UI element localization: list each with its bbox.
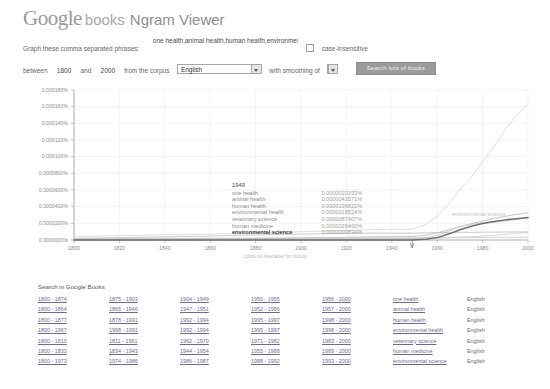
year-range-link[interactable]: 1988 - 1992 <box>251 358 280 364</box>
year-range-link[interactable]: 1800 - 1874 <box>38 296 67 302</box>
year-range-cell: 1800 - 1810 <box>38 338 109 348</box>
case-insensitive-label[interactable]: case-insensitive <box>322 45 368 52</box>
x-axis-tick-label: 1900 <box>295 245 307 251</box>
year-range-link[interactable]: 1992 - 1994 <box>180 317 209 323</box>
year-range-link[interactable]: 1800 - 1877 <box>38 317 67 323</box>
year-range-link[interactable]: 1998 - 2000 <box>322 327 351 333</box>
year-range-link[interactable]: 1834 - 1943 <box>109 348 138 354</box>
search-button[interactable]: Search lots of books <box>356 62 436 75</box>
year-range-link[interactable]: 1962 - 1970 <box>180 338 209 344</box>
x-axis-tick-label: 1880 <box>250 245 262 251</box>
and-label: and <box>80 67 91 74</box>
year-range-link[interactable]: 1800 - 1864 <box>38 306 67 312</box>
y-axis-tick-label: 0.000120% <box>42 137 69 143</box>
year-range-link[interactable]: 1800 - 1973 <box>38 358 67 364</box>
query-row-phrases: Graph these comma separated phrases: one… <box>23 37 368 48</box>
year-range-cell: 1993 - 2000 <box>322 358 393 368</box>
phrase-link[interactable]: human medicine <box>393 348 433 354</box>
year-range-cell: 1800 - 1973 <box>38 358 109 368</box>
year-range-link[interactable]: 1811 - 1961 <box>109 338 137 344</box>
case-insensitive-checkbox[interactable] <box>306 44 314 52</box>
year-range-cell: 1995 - 1997 <box>251 317 322 327</box>
corpus-select[interactable]: English <box>177 64 262 74</box>
year-range-link[interactable]: 1957 - 2000 <box>322 306 351 312</box>
year-range-link[interactable]: 1950 - 1955 <box>251 296 280 302</box>
year-range-link[interactable]: 1875 - 1903 <box>109 296 138 302</box>
chevron-down-icon <box>251 65 261 73</box>
search-links-row: 1800 - 18101811 - 19611962 - 19701971 - … <box>38 338 485 348</box>
phrase-link[interactable]: environmental health <box>393 327 443 333</box>
tooltip-row-value: 0.0000043571% <box>315 196 380 203</box>
year-range-cell: 1947 - 1951 <box>180 306 251 316</box>
language-cell: English <box>467 327 485 337</box>
chart-svg[interactable]: 0.000180%0.000160%0.000140%0.000120%0.00… <box>12 84 539 266</box>
chevron-down-icon <box>328 65 337 73</box>
year-range-link[interactable]: 1995 - 1997 <box>251 317 280 323</box>
year-range-link[interactable]: 1995 - 1997 <box>251 327 280 333</box>
year-range-link[interactable]: 1800 - 1967 <box>38 327 67 333</box>
year-range-cell: 1800 - 1864 <box>38 306 109 316</box>
smoothing-label: with smoothing of <box>269 67 320 74</box>
year-range-link[interactable]: 1993 - 2000 <box>322 358 351 364</box>
year-range-cell: 1989 - 2000 <box>322 348 393 358</box>
year-range-link[interactable]: 1878 - 1991 <box>109 317 138 323</box>
phrase-link[interactable]: animal health <box>393 306 425 312</box>
tooltip-row: veterinary science0.0000087407% <box>232 216 380 223</box>
y-axis-tick-label: 0.000160% <box>42 103 69 109</box>
year-range-link[interactable]: 1800 - 1833 <box>38 348 67 354</box>
year-range-link[interactable]: 1955 - 1988 <box>251 348 280 354</box>
year-range-link[interactable]: 1974 - 1986 <box>109 358 138 364</box>
phrase-cell: veterinary science <box>393 338 467 348</box>
phrases-input[interactable]: one health,animal health,human health,en… <box>153 37 298 44</box>
year-range-cell: 1904 - 1949 <box>180 296 251 306</box>
site-logo[interactable]: GooglebooksNgram Viewer <box>23 6 225 31</box>
phrase-link[interactable]: one health <box>393 296 418 302</box>
x-axis-tick-label: 1860 <box>204 245 216 251</box>
year-range-link[interactable]: 1952 - 1956 <box>251 306 280 312</box>
x-axis-tick-label: 1960 <box>431 245 443 251</box>
search-links-row: 1800 - 18641865 - 19461947 - 19511952 - … <box>38 306 485 316</box>
year-range-link[interactable]: 1947 - 1951 <box>180 306 209 312</box>
year-range-cell: 1834 - 1943 <box>109 348 180 358</box>
phrases-label: Graph these comma separated phrases: <box>23 45 139 52</box>
year-end-input[interactable]: 2000 <box>100 67 116 74</box>
corpus-label: from the corpus <box>124 67 169 74</box>
y-axis-tick-label: 0.0000400% <box>39 203 69 209</box>
phrase-cell: one health <box>393 296 467 306</box>
tooltip-table: one health0.0000020293%animal health0.00… <box>232 190 380 236</box>
year-range-cell: 1957 - 2000 <box>322 306 393 316</box>
year-range-link[interactable]: 1865 - 1946 <box>109 306 138 312</box>
ngram-chart[interactable]: 0.000180%0.000160%0.000140%0.000120%0.00… <box>12 84 539 266</box>
phrase-link[interactable]: veterinary science <box>393 338 436 344</box>
year-range-link[interactable]: 1992 - 1994 <box>180 327 209 333</box>
query-row-options: between 1800 and 2000 from the corpus En… <box>23 59 436 72</box>
year-range-link[interactable]: 1904 - 1949 <box>180 296 209 302</box>
year-range-link[interactable]: 1989 - 2000 <box>322 348 351 354</box>
year-range-cell: 1944 - 1954 <box>180 348 251 358</box>
year-range-link[interactable]: 1968 - 1991 <box>109 327 138 333</box>
series-label-environmental-science[interactable]: environmental science <box>452 211 506 217</box>
language-cell: English <box>467 306 485 316</box>
year-range-link[interactable]: 1998 - 2000 <box>322 317 351 323</box>
smoothing-select[interactable]: 3 <box>327 64 338 74</box>
phrase-link[interactable]: environmental science <box>393 358 447 364</box>
corpus-select-value: English <box>181 66 202 73</box>
year-range-link[interactable]: 1944 - 1954 <box>180 348 209 354</box>
year-range-link[interactable]: 1956 - 2000 <box>322 296 351 302</box>
year-range-cell: 1971 - 1982 <box>251 338 322 348</box>
language-cell: English <box>467 358 485 368</box>
language-cell: English <box>467 296 485 306</box>
year-start-input[interactable]: 1800 <box>56 67 72 74</box>
year-range-link[interactable]: 1800 - 1810 <box>38 338 67 344</box>
year-range-link[interactable]: 1971 - 1982 <box>251 338 280 344</box>
year-range-cell: 1800 - 1877 <box>38 317 109 327</box>
year-range-link[interactable]: 1986 - 1987 <box>180 358 209 364</box>
phrase-link[interactable]: human health <box>393 317 426 323</box>
year-range-cell: 1956 - 2000 <box>322 296 393 306</box>
search-links-row: 1800 - 18771878 - 19911992 - 19941995 - … <box>38 317 485 327</box>
phrase-cell: environmental health <box>393 327 467 337</box>
chart-caption: (click on line/label for focus) <box>12 254 539 259</box>
year-range-cell: 1988 - 1992 <box>251 358 322 368</box>
year-range-link[interactable]: 1983 - 2000 <box>322 338 351 344</box>
year-range-cell: 1983 - 2000 <box>322 338 393 348</box>
